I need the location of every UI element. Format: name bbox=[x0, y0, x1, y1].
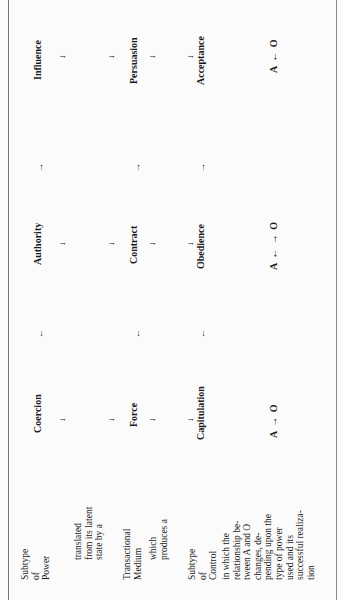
label-subtype-of-power: Subtype of Power bbox=[20, 549, 52, 580]
label-subtype-of-control: Subtype of Control bbox=[187, 549, 219, 580]
arrow-left-icon: ← bbox=[198, 329, 207, 338]
rotated-document-page: Subtype of Power translated from its lat… bbox=[0, 0, 343, 600]
arrow-down-icon: ↓ bbox=[107, 55, 116, 60]
label-line: which bbox=[148, 519, 159, 560]
label-line: Subtype bbox=[20, 549, 31, 580]
label-relationship: in which the relationship be- tween A an… bbox=[221, 510, 316, 580]
label-line: Subtype bbox=[187, 549, 198, 580]
arrow-down-icon: ↓ bbox=[58, 418, 67, 423]
term-obedience: Obedience bbox=[195, 224, 206, 269]
term-contract: Contract bbox=[128, 226, 139, 264]
label-line: state by a bbox=[94, 507, 105, 560]
label-line: from its latent bbox=[84, 507, 95, 560]
label-line: used and its bbox=[285, 510, 296, 580]
label-line: tion bbox=[306, 510, 317, 580]
label-which-produces: which produces a bbox=[148, 519, 169, 560]
relation-o-to-a: A ← O bbox=[268, 39, 279, 73]
arrow-down-icon: ↓ bbox=[58, 242, 67, 247]
label-line: Transactional bbox=[122, 529, 133, 580]
label-line: of bbox=[198, 549, 209, 580]
term-persuasion: Persuasion bbox=[128, 37, 139, 84]
label-line: tween A and O bbox=[242, 510, 253, 580]
label-line: pending upon the bbox=[263, 510, 274, 580]
relation-a-to-o: A → O bbox=[268, 404, 279, 438]
label-line: Medium bbox=[133, 529, 144, 580]
label-line: in which the bbox=[221, 510, 232, 580]
arrow-right-icon: → bbox=[36, 163, 45, 172]
arrow-left-icon: ← bbox=[36, 329, 45, 338]
relation-a-both-o: A ← → O bbox=[268, 221, 279, 270]
label-line: Control bbox=[208, 549, 219, 580]
arrow-down-icon: ↓ bbox=[107, 418, 116, 423]
label-line: relationship be- bbox=[232, 510, 243, 580]
term-authority: Authority bbox=[32, 223, 43, 265]
label-line: type of power bbox=[274, 510, 285, 580]
page-border-bottom bbox=[336, 0, 337, 600]
label-line: of bbox=[31, 549, 42, 580]
label-line: changes, de- bbox=[253, 510, 264, 580]
arrow-down-icon: ↓ bbox=[107, 242, 116, 247]
label-line: successful realiza- bbox=[295, 510, 306, 580]
arrow-right-icon: → bbox=[133, 163, 142, 172]
arrow-down-icon: ↓ bbox=[148, 418, 157, 423]
term-influence: Influence bbox=[32, 40, 43, 80]
arrow-down-icon: ↓ bbox=[186, 242, 195, 247]
label-line: translated bbox=[73, 507, 84, 560]
term-force: Force bbox=[128, 403, 139, 427]
page-border-top bbox=[8, 0, 9, 600]
label-translated: translated from its latent state by a bbox=[73, 507, 105, 560]
arrow-right-icon: → bbox=[198, 163, 207, 172]
arrow-down-icon: ↓ bbox=[58, 55, 67, 60]
arrow-down-icon: ↓ bbox=[186, 418, 195, 423]
term-capitulation: Capitulation bbox=[195, 386, 206, 440]
label-line: produces a bbox=[159, 519, 170, 560]
term-coercion: Coercion bbox=[32, 394, 43, 433]
arrow-down-icon: ↓ bbox=[148, 242, 157, 247]
arrow-down-icon: ↓ bbox=[148, 55, 157, 60]
arrow-down-icon: ↓ bbox=[186, 55, 195, 60]
label-transactional-medium: Transactional Medium bbox=[122, 529, 143, 580]
label-line: Power bbox=[41, 549, 52, 580]
arrow-left-icon: ← bbox=[133, 329, 142, 338]
term-acceptance: Acceptance bbox=[195, 36, 206, 85]
